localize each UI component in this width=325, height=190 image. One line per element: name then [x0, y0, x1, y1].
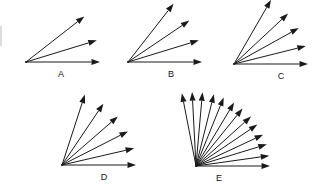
vector-arrowhead: [249, 125, 258, 132]
vector-arrowhead: [96, 104, 103, 113]
vector-fan-figure: ABCDE: [0, 0, 325, 190]
group-label-b: B: [168, 69, 174, 79]
vector-arrowhead: [181, 93, 187, 102]
vector-group-a: A: [25, 16, 100, 79]
vector-arrowhead: [235, 108, 243, 116]
vector-arrow: [128, 40, 199, 62]
vector-arrowhead: [218, 97, 224, 106]
vector-group-b: B: [127, 4, 202, 80]
vector-arrowhead: [300, 61, 309, 67]
vector-arrow: [234, 61, 308, 67]
group-label-c: C: [278, 71, 285, 81]
vector-arrow: [196, 163, 270, 169]
vector-arrowhead: [88, 40, 97, 46]
vector-origin-point: [61, 164, 63, 166]
vector-arrowhead: [297, 45, 306, 51]
vector-arrow: [26, 40, 97, 62]
vector-arrow: [128, 59, 202, 65]
vector-arrow: [196, 116, 251, 166]
vector-arrowhead: [190, 40, 199, 46]
vector-arrowhead: [92, 59, 101, 65]
vector-arrow: [196, 144, 267, 166]
vector-arrowhead: [194, 59, 203, 65]
vector-shaft: [196, 105, 221, 166]
vector-shaft: [234, 48, 298, 64]
vector-shaft: [26, 22, 78, 62]
vector-origin-point: [127, 61, 129, 63]
figure-canvas: ABCDE: [0, 0, 325, 190]
vector-arrowhead: [76, 16, 85, 24]
vector-shaft: [62, 150, 126, 165]
vector-arrow: [26, 59, 100, 65]
vector-arrow: [196, 97, 224, 166]
vector-arrowhead: [181, 21, 190, 28]
vector-shaft: [128, 25, 182, 62]
vector-shaft: [196, 122, 245, 166]
group-label-d: D: [101, 172, 108, 182]
group-label-e: E: [216, 173, 222, 183]
group-label-a: A: [58, 69, 64, 79]
vector-arrowhead: [128, 162, 137, 168]
vector-arrowhead: [166, 4, 174, 13]
vector-shaft: [128, 43, 191, 62]
vector-arrowhead: [258, 144, 267, 150]
vector-arrowhead: [79, 95, 85, 104]
vector-arrowhead: [125, 147, 134, 153]
vector-arrowhead: [209, 94, 215, 103]
vector-arrow: [128, 21, 189, 62]
vector-shaft: [26, 43, 89, 62]
vector-arrowhead: [190, 92, 196, 101]
vector-arrowhead: [260, 154, 269, 160]
vector-arrow: [26, 16, 84, 62]
vector-origin-point: [195, 165, 197, 167]
vector-arrowhead: [262, 163, 271, 169]
vector-arrow: [128, 4, 174, 62]
vector-origin-point: [25, 61, 27, 63]
vector-group-c: C: [233, 0, 308, 81]
vector-arrowhead: [199, 92, 205, 101]
vector-group-d: D: [61, 95, 136, 183]
vector-origin-point: [233, 63, 235, 65]
vector-arrowhead: [227, 103, 234, 112]
vector-arrowhead: [254, 135, 263, 141]
vector-arrowhead: [264, 0, 271, 9]
vector-arrowhead: [290, 28, 299, 35]
vector-group-e: E: [181, 92, 270, 183]
vector-shaft: [128, 10, 168, 62]
vector-arrow: [234, 0, 271, 64]
vector-arrow: [190, 92, 196, 166]
vector-arrowhead: [119, 131, 128, 138]
